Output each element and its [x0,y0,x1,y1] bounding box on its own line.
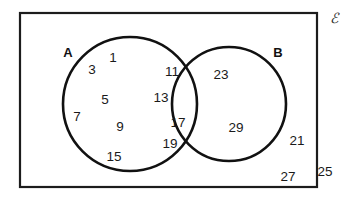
element-label: 11 [165,64,179,79]
element-label: 1 [109,50,117,65]
set-b-circle [172,47,286,161]
element-label: 3 [88,62,96,77]
element-label: 25 [317,164,332,179]
venn-diagram-canvas: A B ℰ 1 3 5 7 9 15 11 13 17 19 23 29 21 … [0,0,349,209]
venn-diagram-figure: A B ℰ 1 3 5 7 9 15 11 13 17 19 23 29 21 … [0,0,349,209]
set-a-label: A [63,45,73,60]
element-label: 19 [162,136,177,151]
set-b-label: B [273,45,282,60]
set-a-circle [63,37,197,171]
element-label: 15 [106,149,121,164]
element-label: 9 [116,119,124,134]
element-label: 7 [73,109,81,124]
element-label: 17 [170,115,185,130]
element-label: 29 [228,120,243,135]
element-label: 27 [280,169,295,184]
element-label: 21 [289,133,304,148]
element-label: 5 [101,92,109,107]
element-label: 13 [153,90,168,105]
universal-set-label: ℰ [330,11,340,26]
element-labels-group: 1 3 5 7 9 15 11 13 17 19 23 29 21 25 27 [73,50,332,184]
element-label: 23 [213,67,228,82]
